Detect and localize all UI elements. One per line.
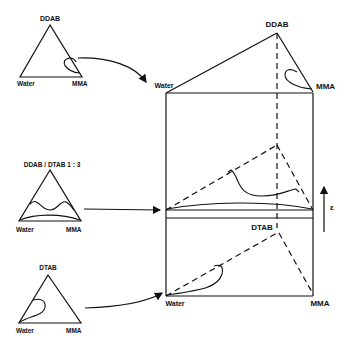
prism <box>166 33 313 296</box>
prism-top-left-label: Water <box>154 82 173 89</box>
prism-top-apex-label: DDAB <box>265 20 288 29</box>
arrow-to-prism-bottom <box>85 293 162 308</box>
prism-bottom-right-label: MMA <box>310 299 329 308</box>
prism-bottom-apex-label: DTAB <box>251 223 273 232</box>
corner-label-mma: MMA <box>66 226 82 233</box>
ternary-panel-dtab: DTAB Water MMA <box>16 264 162 334</box>
panel-title: DDAB <box>40 15 60 22</box>
prism-top-right-label: MMA <box>316 82 335 91</box>
arrow-to-prism-middle <box>84 209 160 210</box>
epsilon-label: ε <box>330 203 334 212</box>
corner-label-mma: MMA <box>66 327 82 334</box>
panel-title: DDAB / DTAB 1 : 3 <box>24 161 81 168</box>
ternary-panel-ddab: DDAB Water MMA <box>17 15 146 87</box>
panel-title: DTAB <box>39 264 57 271</box>
corner-label-water: Water <box>16 327 34 334</box>
corner-label-water: Water <box>17 80 35 87</box>
arrow-to-prism-top <box>78 58 146 82</box>
phase-prism-diagram: DDAB Water MMA DDAB / DTAB 1 : 3 Water M… <box>0 0 345 345</box>
prism-bottom-left-label: Water <box>165 300 184 307</box>
corner-label-mma: MMA <box>72 80 88 87</box>
corner-label-water: Water <box>16 226 34 233</box>
ternary-panel-mixture: DDAB / DTAB 1 : 3 Water MMA <box>16 161 160 233</box>
